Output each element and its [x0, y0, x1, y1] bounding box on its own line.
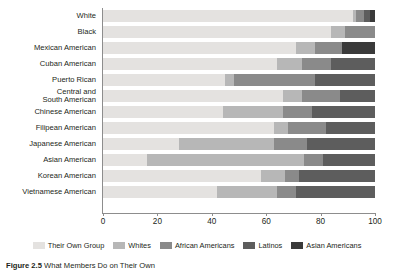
caption-text: What Members Do on Their Own	[44, 261, 155, 270]
x-tick-label: 80	[316, 217, 325, 226]
bar-segment	[103, 26, 331, 37]
bar-segment	[103, 170, 261, 181]
category-label: Vietnamese American	[0, 184, 101, 200]
bar-segment	[342, 42, 375, 53]
bar-row	[103, 56, 375, 72]
bar-track	[103, 154, 375, 165]
category-label: Korean American	[0, 168, 101, 184]
bar-segment	[285, 170, 299, 181]
legend-swatch-icon	[33, 242, 45, 249]
bar-segment	[299, 170, 375, 181]
bar-segment	[103, 122, 274, 133]
x-tick-mark	[157, 213, 158, 216]
legend-label: Their Own Group	[48, 241, 105, 250]
bar-segment	[225, 74, 233, 85]
category-label: Filipean American	[0, 120, 101, 136]
x-tick-label: 0	[101, 217, 106, 226]
bar-row	[103, 136, 375, 152]
bar-segment	[283, 90, 302, 101]
legend-item[interactable]: African Americans	[160, 241, 235, 250]
bar-row	[103, 120, 375, 136]
bar-track	[103, 170, 375, 181]
legend-label: Whites	[128, 241, 151, 250]
x-axis-ticks: 020406080100	[0, 213, 394, 229]
bar-segment	[315, 42, 342, 53]
legend-label: Asian Americans	[306, 241, 361, 250]
bar-segment	[274, 138, 307, 149]
legend-swatch-icon	[291, 242, 303, 249]
bar-segment	[223, 106, 283, 117]
bar-track	[103, 10, 375, 21]
bar-segment	[331, 26, 345, 37]
bar-segment	[288, 122, 326, 133]
bar-segment	[103, 10, 353, 21]
x-tick-mark	[266, 213, 267, 216]
bar-row	[103, 104, 375, 120]
x-tick-label: 40	[207, 217, 216, 226]
bar-row	[103, 8, 375, 24]
bar-row	[103, 152, 375, 168]
legend-item[interactable]: Latinos	[243, 241, 282, 250]
bar-segment	[323, 154, 375, 165]
x-tick-mark	[103, 213, 104, 216]
figure-container: WhiteBlackMexican AmericanCuban American…	[0, 0, 394, 270]
bar-segment	[296, 186, 375, 197]
category-label: Mexican American	[0, 40, 101, 56]
bar-segment	[103, 74, 225, 85]
legend-item[interactable]: Whites	[113, 241, 151, 250]
category-label: Central and South American	[0, 88, 101, 104]
bar-segment	[340, 90, 375, 101]
bar-row	[103, 72, 375, 88]
legend-swatch-icon	[113, 242, 125, 249]
bar-segment	[103, 154, 147, 165]
legend-item[interactable]: Asian Americans	[291, 241, 361, 250]
bar-track	[103, 58, 375, 69]
bar-track	[103, 74, 375, 85]
x-tick-label: 60	[262, 217, 271, 226]
chart-legend: Their Own GroupWhitesAfrican AmericansLa…	[0, 239, 394, 251]
bar-segment	[315, 74, 375, 85]
x-tick-label: 100	[368, 217, 382, 226]
bar-track	[103, 106, 375, 117]
bar-segment	[307, 138, 375, 149]
category-label: Cuban American	[0, 56, 101, 72]
bar-row	[103, 88, 375, 104]
bar-segment	[261, 170, 285, 181]
bar-segment	[283, 106, 313, 117]
chart-plot-area: WhiteBlackMexican AmericanCuban American…	[0, 8, 394, 226]
bar-segment	[345, 26, 375, 37]
category-label: Puerto Rican	[0, 72, 101, 88]
bar-segment	[179, 138, 274, 149]
bar-track	[103, 122, 375, 133]
legend-label: African Americans	[175, 241, 235, 250]
x-tick-label: 20	[153, 217, 162, 226]
category-label: Black	[0, 24, 101, 40]
bar-segment	[217, 186, 277, 197]
bar-segment	[370, 10, 375, 21]
bar-segment	[103, 186, 217, 197]
bar-segment	[277, 186, 296, 197]
bar-segment	[103, 42, 296, 53]
legend-swatch-icon	[160, 242, 172, 249]
bar-track	[103, 186, 375, 197]
bar-segment	[103, 58, 277, 69]
bar-row	[103, 40, 375, 56]
stacked-bars-area	[103, 8, 375, 213]
bar-segment	[312, 106, 375, 117]
bar-segment	[302, 90, 340, 101]
caption-number: Figure 2.5	[6, 261, 42, 270]
bar-segment	[234, 74, 316, 85]
bar-segment	[326, 122, 375, 133]
bar-segment	[274, 122, 288, 133]
bar-segment	[277, 58, 301, 69]
category-label: White	[0, 8, 101, 24]
bar-row	[103, 24, 375, 40]
bar-segment	[103, 138, 179, 149]
legend-item[interactable]: Their Own Group	[33, 241, 105, 250]
category-label: Asian American	[0, 152, 101, 168]
bar-segment	[331, 58, 375, 69]
bar-track	[103, 42, 375, 53]
bar-segment	[356, 10, 364, 21]
bar-segment	[296, 42, 315, 53]
figure-caption: Figure 2.5 What Members Do on Their Own	[6, 261, 394, 270]
